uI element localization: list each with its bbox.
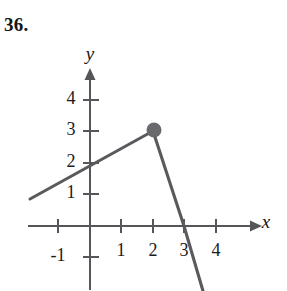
x-tick-label--1: -1: [51, 245, 66, 265]
coordinate-plane-svg: -1 1 2 3 4 4 3 2 1 x y: [0, 0, 287, 291]
x-tick-label-2: 2: [149, 240, 158, 260]
graph-figure: -1 1 2 3 4 4 3 2 1 x y: [0, 0, 287, 291]
x-axis-arrow-icon: [250, 221, 262, 232]
x-tick-label-3: 3: [180, 240, 189, 260]
y-tick-label-1: 1: [67, 182, 76, 202]
corner-point-dot: [147, 123, 162, 138]
rising-line-segment: [30, 131, 153, 199]
falling-line-segment: [153, 131, 203, 291]
x-tick-label-1: 1: [117, 240, 126, 260]
x-axis-label: x: [261, 211, 271, 232]
y-axis-label: y: [84, 43, 95, 64]
y-tick-label-3: 3: [67, 119, 76, 139]
y-tick-label-4: 4: [67, 88, 76, 108]
x-tick-label-4: 4: [212, 240, 221, 260]
screenshot-root: 36.: [0, 0, 287, 291]
y-tick-label-2: 2: [67, 151, 76, 171]
y-axis-arrow-icon: [85, 68, 96, 80]
